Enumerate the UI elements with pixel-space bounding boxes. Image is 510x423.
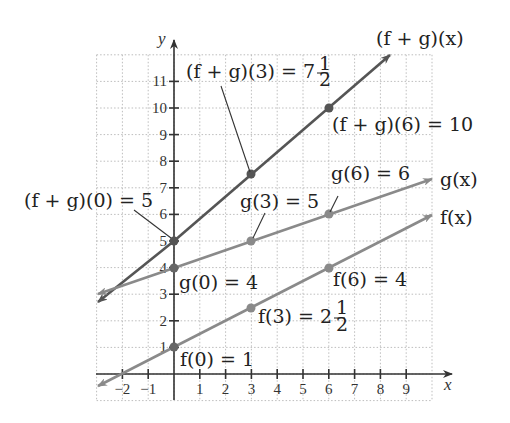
x-tick-label: 4: [273, 381, 281, 397]
point-fg-3: [247, 170, 256, 179]
point-g-0: [170, 264, 179, 273]
x-tick-label: 5: [299, 381, 307, 397]
x-tick-label: 6: [325, 381, 333, 397]
x-tick-label: 2: [222, 381, 230, 397]
point-g-6: [325, 210, 334, 219]
y-tick-label: 10: [152, 100, 167, 116]
label-f0: f(0) = 1: [180, 348, 254, 370]
y-tick-label: 7: [160, 180, 168, 196]
label-fg6: (f + g)(6) = 10: [332, 113, 473, 135]
chart-figure: −2−1123456789 1234567891011 x y (f: [0, 0, 510, 423]
point-fg-6: [325, 104, 334, 113]
leader-g3: [253, 213, 265, 238]
label-g0: g(0) = 4: [179, 271, 258, 293]
label-f3-den: 2: [336, 313, 348, 335]
label-fg3: (f + g)(3) = 7: [186, 60, 315, 82]
grid: [97, 55, 432, 401]
y-tick-label: 11: [153, 73, 167, 89]
f-line-left-arrow: [98, 347, 174, 386]
label-f6: f(6) = 4: [333, 268, 407, 290]
x-tick-label: 9: [402, 381, 410, 397]
y-tick-label: 3: [160, 286, 168, 302]
label-fg-line: (f + g)(x): [376, 27, 464, 49]
label-g3: g(3) = 5: [240, 190, 319, 212]
label-fg3-den: 2: [319, 68, 331, 90]
y-tick-label: 8: [160, 153, 168, 169]
x-tick-label: 8: [377, 381, 385, 397]
label-g-line: g(x): [440, 168, 478, 190]
x-tick-label: 3: [248, 381, 256, 397]
fg-line: [174, 55, 390, 241]
annotations: (f + g)(x) (f + g)(3) = 7 1 2 (f + g)(6)…: [24, 27, 478, 370]
chart-svg: −2−1123456789 1234567891011 x y (f: [0, 0, 510, 423]
y-tick-label: 2: [160, 313, 168, 329]
label-f3: f(3) = 2: [258, 305, 332, 327]
x-tick-label: −1: [140, 381, 156, 397]
y-tick-label: 6: [160, 206, 168, 222]
label-g6: g(6) = 6: [331, 162, 410, 184]
label-f-line: f(x): [440, 206, 473, 228]
y-tick-label: 9: [160, 127, 168, 143]
x-tick-label: 7: [351, 381, 359, 397]
point-f-3: [247, 304, 256, 313]
point-f-0: [170, 343, 179, 352]
label-fg0: (f + g)(0) = 5: [24, 189, 153, 211]
y-ticks: 1234567891011: [152, 73, 179, 355]
leader-g6: [330, 196, 338, 212]
x-tick-label: −2: [114, 381, 130, 397]
x-axis-label: x: [443, 375, 452, 394]
point-g-3: [247, 237, 256, 246]
y-axis-label: y: [156, 29, 166, 48]
x-tick-label: 1: [196, 381, 204, 397]
